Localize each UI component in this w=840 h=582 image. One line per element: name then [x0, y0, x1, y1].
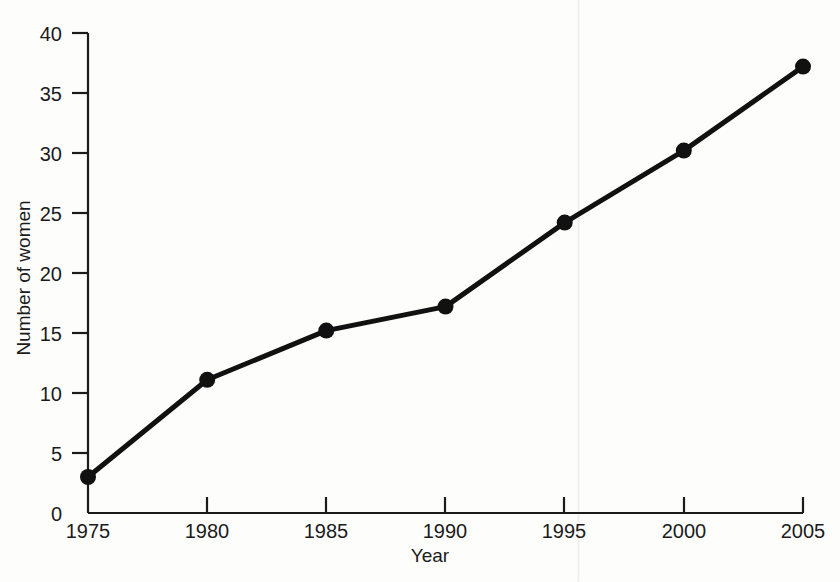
y-tick-label-25: 25 [40, 203, 62, 225]
data-point-1995 [557, 215, 573, 231]
data-point-markers [80, 59, 811, 485]
axis-lines [88, 33, 803, 513]
x-axis-ticks [207, 497, 803, 513]
y-tick-label-10: 10 [40, 383, 62, 405]
y-axis-title: Number of women [13, 200, 34, 355]
y-axis-tick-labels: 40 35 30 25 20 15 10 5 0 [40, 23, 62, 525]
y-tick-label-5: 5 [51, 443, 62, 465]
x-axis-title: Year [411, 545, 450, 566]
x-tick-label-2000: 2000 [662, 520, 707, 542]
data-point-1980 [199, 372, 215, 388]
x-axis-tick-labels: 1975 1980 1985 1990 1995 2000 2005 [66, 520, 826, 542]
x-tick-label-1990: 1990 [423, 520, 468, 542]
data-point-2005 [795, 59, 811, 75]
x-tick-label-1985: 1985 [304, 520, 349, 542]
line-chart: 40 35 30 25 20 15 10 5 0 1975 1980 1985 … [0, 0, 840, 582]
data-point-2000 [676, 143, 692, 159]
data-point-1975 [80, 469, 96, 485]
y-tick-label-30: 30 [40, 143, 62, 165]
data-point-1985 [318, 323, 334, 339]
data-series-line [88, 67, 803, 477]
x-tick-label-1975: 1975 [66, 520, 111, 542]
y-tick-label-15: 15 [40, 323, 62, 345]
y-tick-label-0: 0 [51, 503, 62, 525]
y-tick-label-40: 40 [40, 23, 62, 45]
y-tick-label-35: 35 [40, 83, 62, 105]
x-tick-label-1980: 1980 [185, 520, 230, 542]
y-axis-ticks [72, 33, 88, 453]
x-tick-label-2005: 2005 [781, 520, 826, 542]
y-tick-label-20: 20 [40, 263, 62, 285]
data-point-1990 [438, 299, 454, 315]
x-tick-label-1995: 1995 [542, 520, 587, 542]
figure-canvas: 40 35 30 25 20 15 10 5 0 1975 1980 1985 … [0, 0, 840, 582]
